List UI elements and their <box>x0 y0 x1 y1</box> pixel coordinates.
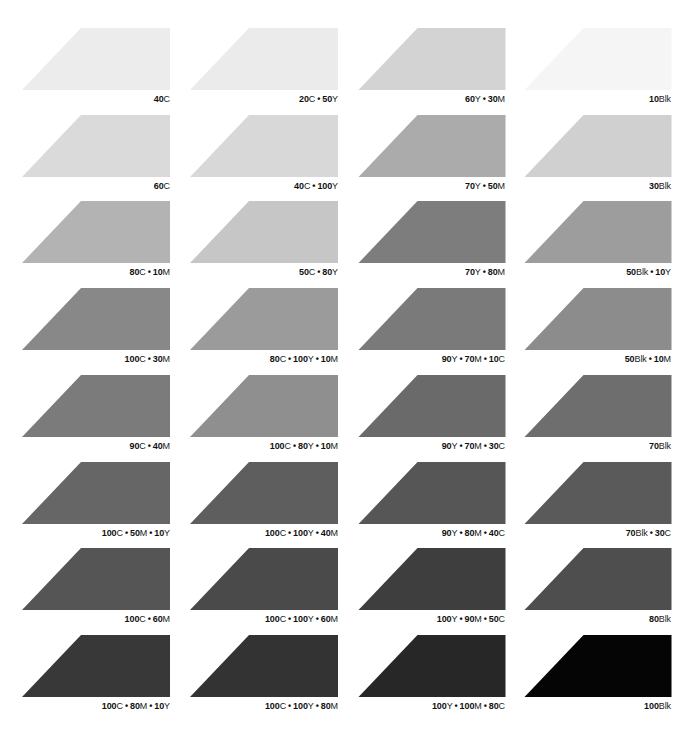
swatch-label: 100C•50M•10Y <box>102 528 170 539</box>
swatch-label: 40C <box>154 94 170 105</box>
ink-percentage: 80 <box>270 354 280 364</box>
swatch-cell: 60C <box>22 115 170 199</box>
color-swatch <box>358 28 506 90</box>
separator-dot: • <box>146 354 153 364</box>
ink-percentage: 70 <box>626 528 636 538</box>
ink-percentage: 100 <box>432 701 447 711</box>
ink-channel: C <box>139 614 145 624</box>
color-swatch <box>358 115 506 177</box>
swatch-label: 20C•50Y <box>299 94 338 105</box>
separator-dot: • <box>647 354 654 364</box>
ink-channel: C <box>665 528 671 538</box>
ink-percentage: 50 <box>489 614 499 624</box>
ink-channel: M <box>498 94 505 104</box>
ink-channel: Blk <box>659 701 671 711</box>
swatch-label: 50Blk•10M <box>625 354 671 365</box>
swatch-label: 90Y•70M•30C <box>442 441 505 452</box>
ink-channel: M <box>163 267 170 277</box>
ink-percentage: 70 <box>465 181 475 191</box>
ink-channel: C <box>117 701 123 711</box>
ink-channel: Blk <box>659 614 671 624</box>
ink-channel: M <box>474 441 481 451</box>
separator-dot: • <box>481 267 488 277</box>
ink-channel: C <box>139 354 145 364</box>
swatch-label: 100C•60M <box>125 614 170 625</box>
color-swatch <box>190 115 338 177</box>
ink-channel: Y <box>447 701 453 711</box>
swatch-label: 80C•100Y•10M <box>270 354 338 365</box>
ink-channel: Y <box>164 701 170 711</box>
color-swatch <box>524 288 672 350</box>
swatch-cell: 90Y•80M•40C <box>358 462 505 546</box>
separator-dot: • <box>482 441 489 451</box>
swatch-cell: 100C•100Y•80M <box>190 635 338 719</box>
color-swatch <box>22 201 170 263</box>
ink-percentage: 90 <box>442 528 452 538</box>
ink-percentage: 100 <box>293 701 308 711</box>
swatch-cell: 90C•40M <box>22 375 170 459</box>
swatch-cell: 100Y•100M•80C <box>358 635 505 719</box>
separator-dot: • <box>314 441 321 451</box>
swatch-cell: 30Blk <box>524 115 671 199</box>
ink-percentage: 30 <box>655 528 665 538</box>
swatch-label: 70Blk•30C <box>626 528 671 539</box>
separator-dot: • <box>648 528 655 538</box>
ink-percentage: 30 <box>488 94 498 104</box>
swatch-label: 60C <box>154 181 170 192</box>
ink-channel: Blk <box>636 267 648 277</box>
ink-channel: C <box>139 441 145 451</box>
separator-dot: • <box>314 701 321 711</box>
swatch-cell: 100C•100Y•40M <box>190 462 338 546</box>
ink-percentage: 10 <box>154 701 164 711</box>
separator-dot: • <box>453 701 460 711</box>
swatch-label: 70Y•80M <box>465 267 505 278</box>
ink-percentage: 10 <box>655 267 665 277</box>
ink-channel: Blk <box>659 181 671 191</box>
ink-percentage: 90 <box>130 441 140 451</box>
ink-channel: Y <box>308 441 314 451</box>
swatch-cell: 100C•80M•10Y <box>22 635 170 719</box>
ink-channel: Y <box>332 181 338 191</box>
ink-channel: Blk <box>659 94 671 104</box>
ink-percentage: 80 <box>489 701 499 711</box>
color-swatch <box>524 115 672 177</box>
ink-percentage: 70 <box>465 354 475 364</box>
ink-percentage: 30 <box>649 181 659 191</box>
color-swatch <box>22 288 170 350</box>
ink-percentage: 80 <box>321 701 331 711</box>
swatch-cell: 100C•50M•10Y <box>22 462 170 546</box>
separator-dot: • <box>457 441 464 451</box>
color-swatch <box>358 201 506 263</box>
ink-channel: Blk <box>636 528 648 538</box>
ink-channel: C <box>164 94 170 104</box>
separator-dot: • <box>481 94 488 104</box>
ink-percentage: 10 <box>489 354 499 364</box>
ink-percentage: 80 <box>322 267 332 277</box>
swatch-cell: 20C•50Y <box>190 28 338 112</box>
separator-dot: • <box>314 614 321 624</box>
separator-dot: • <box>481 181 488 191</box>
ink-percentage: 80 <box>488 267 498 277</box>
swatch-cell: 70Y•50M <box>358 115 505 199</box>
separator-dot: • <box>482 528 489 538</box>
color-swatch <box>190 288 338 350</box>
swatch-cell: 80C•100Y•10M <box>190 288 338 372</box>
swatch-label: 70Blk <box>649 441 671 452</box>
swatch-label: 100Blk <box>644 701 671 712</box>
ink-channel: C <box>164 181 170 191</box>
swatch-cell: 90Y•70M•10C <box>358 288 505 372</box>
ink-channel: Y <box>475 181 481 191</box>
ink-channel: Y <box>475 94 481 104</box>
ink-percentage: 60 <box>465 94 475 104</box>
swatch-label: 100C•30M <box>125 354 170 365</box>
swatch-label: 50C•80Y <box>299 267 338 278</box>
ink-channel: Y <box>665 267 671 277</box>
ink-percentage: 70 <box>465 441 475 451</box>
separator-dot: • <box>123 701 130 711</box>
ink-percentage: 100 <box>460 701 475 711</box>
separator-dot: • <box>482 354 489 364</box>
ink-percentage: 100 <box>102 701 117 711</box>
separator-dot: • <box>314 354 321 364</box>
swatch-label: 90Y•80M•40C <box>442 528 505 539</box>
ink-percentage: 60 <box>153 614 163 624</box>
